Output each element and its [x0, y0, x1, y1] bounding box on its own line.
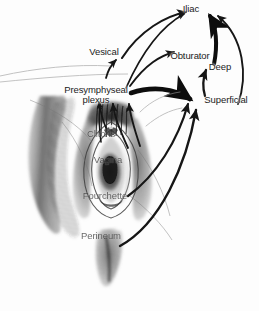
flow-superficial-to-deep: [203, 70, 206, 96]
label-obturator: Obturator: [162, 51, 218, 61]
flow-lower-to-plexus: [129, 104, 140, 146]
flow-feed-to-vesical: [106, 60, 116, 78]
label-vagina: Vagina: [86, 155, 130, 165]
label-vesical: Vesical: [80, 47, 128, 57]
label-superficial: Superficial: [196, 95, 256, 105]
label-clitoris: Clitoris: [76, 129, 126, 139]
label-deep: Deep: [203, 62, 237, 72]
presymphyseal-line-2: plexus: [83, 94, 110, 105]
label-perineum: Perineum: [70, 231, 132, 241]
label-fourchette: Fourchette: [72, 191, 138, 201]
lymphatic-drainage-diagram: Iliac Vesical Obturator Deep Superficial…: [0, 0, 259, 311]
label-iliac: Iliac: [168, 4, 214, 14]
label-presymphyseal-plexus: Presymphyseal plexus: [58, 85, 134, 104]
flow-superficial-to-iliac-outer: [218, 16, 243, 104]
flow-vagina-to-plexus-right: [113, 104, 128, 148]
flow-perineum-to-superficial: [120, 110, 196, 246]
